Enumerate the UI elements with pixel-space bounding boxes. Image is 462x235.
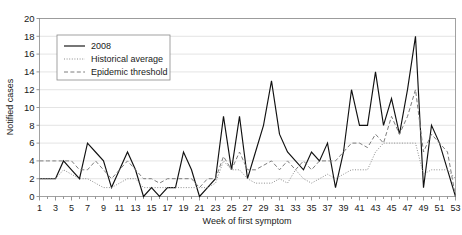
y-tick-label: 2: [29, 173, 34, 184]
x-axis-title: Week of first symptom: [203, 216, 292, 226]
x-tick-label: 23: [210, 203, 220, 213]
y-tick-label: 14: [24, 66, 35, 77]
x-tick-label: 15: [146, 203, 156, 213]
chart-figure: 02468101214161820 1357911131517192123252…: [0, 0, 462, 235]
y-tick-label: 18: [24, 31, 35, 42]
y-axis-tick-labels: 02468101214161820: [24, 13, 35, 202]
x-tick-label: 27: [242, 203, 252, 213]
x-tick-label: 43: [370, 203, 380, 213]
x-tick-label: 49: [418, 203, 428, 213]
y-tick-label: 20: [24, 13, 35, 24]
x-tick-label: 35: [306, 203, 316, 213]
y-tick-label: 12: [24, 84, 35, 95]
y-tick-label: 6: [29, 137, 34, 148]
x-tick-label: 17: [162, 203, 172, 213]
x-tick-label: 11: [115, 203, 124, 213]
x-tick-label: 51: [434, 203, 444, 213]
x-tick-label: 25: [226, 203, 236, 213]
x-tick-label: 47: [402, 203, 412, 213]
x-tick-label: 5: [69, 203, 74, 213]
x-tick-label: 31: [274, 203, 284, 213]
x-tick-label: 9: [101, 203, 106, 213]
x-tick-label: 21: [194, 203, 204, 213]
y-tick-label: 16: [24, 48, 35, 59]
x-axis-tick-marks: [40, 197, 456, 201]
x-tick-label: 29: [258, 203, 268, 213]
legend: 2008Historical averageEpidemic threshold: [57, 35, 170, 80]
legend-label: Historical average: [91, 54, 163, 64]
x-tick-label: 7: [85, 203, 90, 213]
y-axis-title: Notified cases: [5, 78, 15, 135]
legend-label: Epidemic threshold: [91, 67, 168, 77]
x-tick-label: 41: [354, 203, 364, 213]
x-tick-label: 53: [450, 203, 460, 213]
x-tick-label: 37: [322, 203, 332, 213]
y-tick-label: 10: [24, 102, 35, 113]
legend-label: 2008: [91, 41, 111, 51]
x-tick-label: 45: [386, 203, 396, 213]
x-tick-label: 3: [53, 203, 58, 213]
x-tick-label: 1: [37, 203, 42, 213]
line-chart: 02468101214161820 1357911131517192123252…: [0, 0, 462, 235]
y-tick-label: 4: [29, 155, 34, 166]
x-axis-tick-labels: 1357911131517192123252729313335373941434…: [37, 203, 461, 213]
y-tick-label: 8: [29, 120, 34, 131]
x-tick-label: 39: [338, 203, 348, 213]
y-tick-label: 0: [29, 191, 34, 202]
x-tick-label: 13: [130, 203, 140, 213]
x-tick-label: 19: [178, 203, 188, 213]
x-tick-label: 33: [290, 203, 300, 213]
series-line-dotted: [40, 143, 456, 188]
